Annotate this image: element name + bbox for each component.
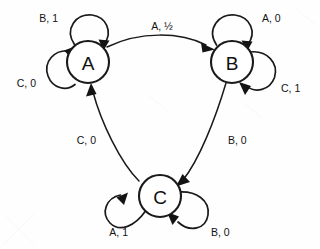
edge-c-to-a (86, 83, 139, 181)
edge-a-to-b (107, 35, 215, 52)
edge-a-to-b-label: A, ½ (151, 20, 173, 32)
state-node-c[interactable]: C (139, 175, 181, 217)
edge-a-to-b-path (107, 35, 206, 47)
state-machine-diagram: B, 1 C, 0 A, 0 C, 1 A, 1 B, 0 (0, 0, 320, 249)
self-loop-a-b1-label: B, 1 (39, 12, 58, 24)
state-diagram-canvas: B, 1 C, 0 A, 0 C, 1 A, 1 B, 0 (0, 0, 320, 249)
state-node-b-label: B (226, 53, 239, 74)
self-loop-c-a1-arrowhead (117, 193, 129, 206)
edge-c-to-a-path (93, 92, 139, 181)
self-loop-a-c0-label: C, 0 (17, 77, 36, 89)
edge-b-to-c (176, 83, 226, 187)
self-loop-b-c1-arrowhead (239, 82, 251, 95)
self-loop-c-a1-label: A, 1 (109, 226, 128, 238)
self-loop-b-c1-label: C, 1 (281, 82, 300, 94)
state-node-a[interactable]: A (67, 41, 109, 83)
self-loop-c-b0-path (178, 192, 208, 228)
self-loop-c-b0-label: B, 0 (211, 226, 230, 238)
state-node-b[interactable]: B (211, 41, 253, 83)
state-node-c-label: C (153, 187, 167, 208)
state-node-a-label: A (82, 53, 95, 74)
self-loop-b-a0-label: A, 0 (262, 12, 281, 24)
edge-c-to-a-arrowhead (86, 83, 97, 97)
edge-b-to-c-label: B, 0 (228, 134, 247, 146)
edge-c-to-a-label: C, 0 (77, 134, 96, 146)
edge-b-to-c-path (183, 83, 226, 180)
